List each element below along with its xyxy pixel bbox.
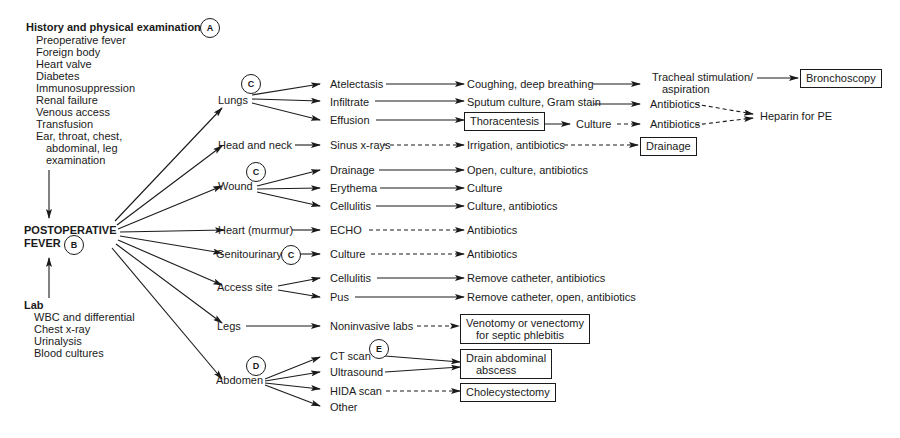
marker-b: B — [64, 235, 84, 255]
finding-cellulitis-access: Cellulitis — [330, 272, 371, 285]
finding-effusion: Effusion — [330, 114, 370, 127]
action-sputum: Sputum culture, Gram stain — [467, 96, 601, 109]
finding-pus: Pus — [330, 291, 349, 304]
site-genitourinary: Genitourinary — [216, 248, 282, 261]
finding-cellulitis-wound: Cellulitis — [330, 200, 371, 213]
finding-drainage: Drainage — [330, 164, 375, 177]
finding-ultrasound: Ultrasound — [330, 366, 383, 379]
next-bronchoscopy-box: Bronchoscopy — [800, 69, 882, 88]
finding-sinus: Sinus x-rays — [330, 139, 391, 152]
action-irrigation: Irrigation, antibiotics — [467, 139, 565, 152]
action-venotomy-box: Venotomy or venectomy for septic phlebit… — [460, 314, 590, 344]
history-item: examination — [46, 154, 105, 167]
marker-c-wound: C — [246, 162, 266, 182]
action-cholecystectomy-box: Cholecystectomy — [460, 383, 556, 402]
action-antibiotics-gu: Antibiotics — [467, 248, 517, 261]
venotomy-line-1: Venotomy or venectomy — [466, 317, 584, 329]
action-remove-catheter-open: Remove catheter, open, antibiotics — [467, 291, 636, 304]
site-legs: Legs — [217, 320, 241, 333]
site-lungs: Lungs — [218, 94, 248, 107]
flow-arrows — [0, 0, 900, 438]
site-wound: Wound — [218, 180, 253, 193]
finding-noninvasive: Noninvasive labs — [330, 320, 413, 333]
site-head-neck: Head and neck — [218, 139, 292, 152]
action-thoracentesis-box: Thoracentesis — [464, 112, 545, 131]
site-heart: Heart (murmur) — [218, 224, 293, 237]
next-drainage-box: Drainage — [640, 137, 697, 156]
action-culture-antibiotics: Culture, antibiotics — [467, 200, 558, 213]
next-tracheal-2: aspiration — [662, 83, 710, 96]
site-access: Access site — [217, 281, 273, 294]
marker-d: D — [246, 356, 266, 376]
finding-culture-gu: Culture — [330, 248, 365, 261]
action-culture-erythema: Culture — [467, 182, 502, 195]
finding-echo: ECHO — [330, 224, 362, 237]
marker-c-gu: C — [281, 245, 301, 265]
next-heparin: Heparin for PE — [760, 110, 832, 123]
finding-other: Other — [330, 401, 358, 414]
next-antibiotics-1: Antibiotics — [650, 98, 700, 111]
finding-atelectasis: Atelectasis — [330, 78, 383, 91]
action-antibiotics-heart: Antibiotics — [467, 224, 517, 237]
finding-infiltrate: Infiltrate — [330, 96, 369, 109]
finding-erythema: Erythema — [330, 182, 377, 195]
action-remove-catheter: Remove catheter, antibiotics — [467, 272, 605, 285]
marker-c-lungs: C — [241, 74, 261, 94]
action-drain-abscess-box: Drain abdominal abscess — [460, 349, 552, 379]
lab-item: Blood cultures — [34, 347, 104, 360]
center-title-2: FEVER — [24, 237, 61, 250]
action-culture-effusion: Culture — [576, 118, 611, 131]
action-open-culture: Open, culture, antibiotics — [467, 164, 588, 177]
history-title: History and physical examination — [26, 21, 201, 34]
action-coughing: Coughing, deep breathing — [467, 78, 594, 91]
drain-line-2: abscess — [466, 364, 546, 376]
next-antibiotics-2: Antibiotics — [650, 118, 700, 131]
marker-a: A — [200, 18, 220, 38]
finding-hida: HIDA scan — [330, 385, 382, 398]
marker-e: E — [369, 339, 389, 359]
drain-line-1: Drain abdominal — [466, 352, 546, 364]
venotomy-line-2: for septic phlebitis — [466, 329, 584, 341]
finding-ct: CT scan — [330, 350, 371, 363]
